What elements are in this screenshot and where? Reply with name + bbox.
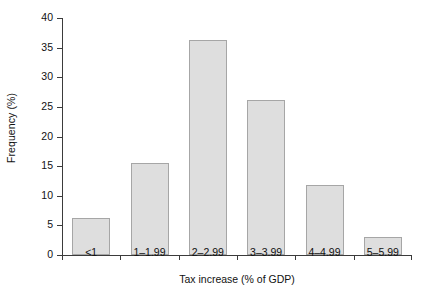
y-tick-label: 40	[41, 11, 53, 23]
histogram-figure: Frequency (%) 0510152025303540 <11–1.992…	[0, 0, 427, 304]
x-tick-label: 3–3.99	[237, 246, 295, 258]
x-tick-label: 5–5.99	[354, 246, 412, 258]
y-tick-35	[57, 48, 62, 49]
x-tick-label: 1–1.99	[120, 246, 178, 258]
y-tick-label: 30	[41, 70, 53, 82]
bar	[189, 40, 227, 255]
y-tick-label: 25	[41, 100, 53, 112]
plot-area: 0510152025303540	[62, 18, 412, 255]
y-tick-30	[57, 77, 62, 78]
y-tick-label: 0	[47, 248, 53, 260]
y-tick-label: 20	[41, 130, 53, 142]
y-axis-title-text: Frequency (%)	[5, 92, 17, 162]
y-tick-5	[57, 225, 62, 226]
x-axis-title: Tax increase (% of GDP)	[62, 273, 412, 285]
y-tick-label: 10	[41, 189, 53, 201]
bar	[247, 100, 285, 255]
y-tick-label: 15	[41, 159, 53, 171]
bar	[131, 163, 169, 255]
y-axis-line	[62, 18, 63, 255]
y-axis-title: Frequency (%)	[0, 0, 22, 255]
y-tick-label: 35	[41, 41, 53, 53]
y-tick-40	[57, 18, 62, 19]
x-tick-label: 4–4.99	[295, 246, 353, 258]
y-tick-15	[57, 166, 62, 167]
x-tick-label: 2–2.99	[179, 246, 237, 258]
x-tick-label: <1	[62, 246, 120, 258]
y-tick-10	[57, 196, 62, 197]
bar	[306, 185, 344, 255]
y-tick-label: 5	[47, 218, 53, 230]
y-tick-25	[57, 107, 62, 108]
y-tick-20	[57, 137, 62, 138]
